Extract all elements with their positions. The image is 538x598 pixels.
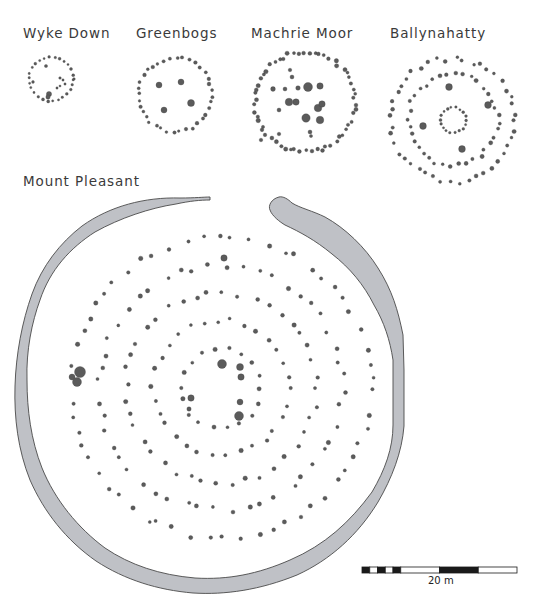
mount-pleasant-posthole bbox=[284, 252, 287, 255]
mount-pleasant-posthole bbox=[272, 467, 276, 471]
scale-bar-segment bbox=[440, 567, 479, 573]
machrie-moor-large-post bbox=[304, 83, 313, 92]
ballynahatty-posthole bbox=[403, 157, 407, 161]
greenbogs-posthole bbox=[168, 57, 171, 60]
mount-pleasant-posthole bbox=[247, 238, 250, 241]
machrie-moor-posthole bbox=[323, 145, 327, 149]
ballynahatty-posthole bbox=[439, 118, 442, 121]
wyke-down-posthole bbox=[28, 82, 30, 84]
mount-pleasant-large-post bbox=[237, 364, 244, 371]
greenbogs-posthole bbox=[145, 115, 148, 118]
mount-pleasant-posthole bbox=[105, 336, 108, 339]
mount-pleasant-posthole bbox=[356, 442, 360, 446]
mount-pleasant-posthole bbox=[371, 387, 374, 390]
machrie-moor-large-post bbox=[277, 132, 281, 136]
mount-pleasant-large-post bbox=[237, 399, 243, 405]
wyke-down-large-post bbox=[32, 81, 35, 84]
mount-pleasant-posthole bbox=[203, 322, 206, 325]
mount-pleasant-posthole bbox=[146, 325, 150, 329]
mount-pleasant-posthole bbox=[191, 361, 194, 364]
mount-pleasant-posthole bbox=[337, 402, 341, 406]
ditch-west-segment bbox=[15, 197, 404, 594]
machrie-moor-posthole bbox=[263, 133, 267, 137]
mount-pleasant-posthole bbox=[211, 453, 214, 456]
mount-pleasant-posthole bbox=[258, 532, 262, 536]
ballynahatty-posthole bbox=[460, 59, 463, 62]
ballynahatty-posthole bbox=[443, 110, 445, 112]
mount-pleasant-posthole bbox=[243, 324, 247, 328]
machrie-moor-posthole bbox=[274, 60, 277, 63]
scale-bar-segment bbox=[393, 567, 401, 573]
mount-pleasant-posthole bbox=[302, 430, 305, 433]
ballynahatty-posthole bbox=[427, 156, 430, 159]
machrie-moor-posthole bbox=[352, 96, 356, 100]
mount-pleasant-posthole bbox=[70, 364, 73, 367]
greenbogs-posthole bbox=[198, 66, 201, 69]
machrie-moor-posthole bbox=[349, 82, 352, 85]
mount-pleasant-posthole bbox=[323, 447, 326, 450]
ballynahatty-posthole bbox=[406, 118, 409, 121]
mount-pleasant-posthole bbox=[163, 421, 167, 425]
ballynahatty-posthole bbox=[486, 92, 490, 96]
greenbogs-posthole bbox=[207, 82, 211, 86]
scale-bar-segment bbox=[385, 567, 393, 573]
mount-pleasant-posthole bbox=[200, 351, 203, 354]
greenbogs-posthole bbox=[143, 73, 147, 77]
ballynahatty-posthole bbox=[388, 131, 392, 135]
mount-pleasant-posthole bbox=[149, 254, 153, 258]
mount-pleasant-posthole bbox=[224, 454, 227, 457]
wyke-down-posthole bbox=[30, 86, 32, 88]
mount-pleasant-posthole bbox=[107, 487, 111, 491]
mount-pleasant-posthole bbox=[259, 269, 262, 272]
ballynahatty-posthole bbox=[400, 85, 403, 88]
mount-pleasant-posthole bbox=[257, 502, 261, 506]
machrie-moor-posthole bbox=[302, 51, 306, 55]
mount-pleasant-posthole bbox=[163, 461, 167, 465]
machrie-moor-posthole bbox=[261, 125, 264, 128]
machrie-moor-large-post bbox=[271, 87, 276, 92]
mount-pleasant-posthole bbox=[270, 273, 273, 276]
ballynahatty-posthole bbox=[408, 99, 411, 102]
mount-pleasant-posthole bbox=[292, 323, 297, 328]
mount-pleasant-posthole bbox=[311, 463, 315, 467]
mount-pleasant-posthole bbox=[333, 285, 337, 289]
mount-pleasant-posthole bbox=[281, 415, 285, 419]
ballynahatty-posthole bbox=[465, 115, 468, 118]
machrie-moor-posthole bbox=[254, 88, 258, 92]
mount-pleasant-posthole bbox=[359, 328, 363, 332]
mount-pleasant-posthole bbox=[117, 493, 121, 497]
ballynahatty-posthole bbox=[496, 159, 500, 163]
ballynahatty-posthole bbox=[471, 157, 474, 160]
mount-pleasant-posthole bbox=[231, 483, 235, 487]
machrie-moor-large-post bbox=[259, 138, 263, 142]
mount-pleasant-posthole bbox=[286, 286, 290, 290]
ballynahatty-posthole bbox=[440, 114, 443, 117]
mount-pleasant-posthole bbox=[179, 268, 183, 272]
mount-pleasant-posthole bbox=[299, 515, 303, 519]
ballynahatty-posthole bbox=[481, 171, 485, 175]
ballynahatty-posthole bbox=[409, 162, 412, 165]
mount-pleasant-posthole bbox=[182, 370, 186, 374]
mount-pleasant-posthole bbox=[154, 519, 157, 522]
mount-pleasant-posthole bbox=[103, 414, 107, 418]
mount-pleasant-posthole bbox=[343, 469, 346, 472]
ballynahatty-posthole bbox=[497, 113, 501, 117]
mount-pleasant-posthole bbox=[128, 412, 132, 416]
ballynahatty-posthole bbox=[438, 74, 442, 78]
machrie-moor-posthole bbox=[343, 68, 347, 72]
greenbogs-posthole bbox=[155, 124, 158, 127]
ballynahatty-posthole bbox=[441, 163, 444, 166]
ballynahatty-posthole bbox=[492, 136, 495, 139]
ballynahatty-posthole bbox=[474, 78, 478, 82]
mount-pleasant-large-post bbox=[238, 374, 244, 380]
ballynahatty-posthole bbox=[493, 106, 496, 109]
site-label-mount-pleasant: Mount Pleasant bbox=[23, 173, 140, 189]
mount-pleasant-posthole bbox=[177, 332, 180, 335]
greenbogs-posthole bbox=[138, 100, 141, 103]
ballynahatty-posthole bbox=[442, 127, 444, 129]
mount-pleasant-posthole bbox=[225, 266, 229, 270]
mount-pleasant-posthole bbox=[148, 450, 152, 454]
mount-pleasant-posthole bbox=[311, 268, 315, 272]
wyke-down-posthole bbox=[47, 100, 50, 103]
mount-pleasant-posthole bbox=[336, 477, 340, 481]
